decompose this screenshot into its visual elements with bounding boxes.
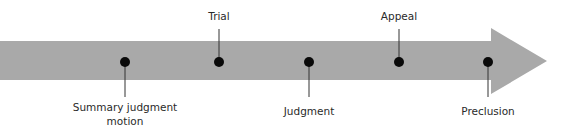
timeline-arrow bbox=[0, 28, 547, 94]
milestone-label-trial: Trial bbox=[208, 9, 229, 23]
milestone-dot-trial bbox=[214, 57, 224, 67]
milestone-label-summary-judgment: Summary judgment motion bbox=[73, 100, 177, 128]
milestone-dot-judgment bbox=[304, 57, 314, 67]
milestone-label-line1: Summary judgment bbox=[73, 100, 177, 114]
milestone-label-appeal: Appeal bbox=[381, 9, 417, 23]
milestone-label-judgment: Judgment bbox=[284, 104, 335, 118]
milestone-label-preclusion: Preclusion bbox=[461, 104, 515, 118]
milestone-label-line2: motion bbox=[73, 114, 177, 128]
milestone-dot-summary-judgment bbox=[120, 57, 130, 67]
milestone-dot-preclusion bbox=[483, 57, 493, 67]
timeline-diagram: Summary judgment motion Trial Judgment A… bbox=[0, 0, 579, 135]
milestone-dot-appeal bbox=[394, 57, 404, 67]
